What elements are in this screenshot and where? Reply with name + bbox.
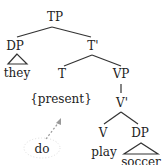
edge-vbar-v [104,112,121,124]
node-they: they [4,67,30,79]
moved-do: do [35,143,50,155]
node-tbar: T' [87,40,98,52]
node-v: V [99,127,108,139]
dp-triangle [8,54,27,64]
node-dp-obj: DP [131,127,149,139]
node-present: {present} [30,93,92,105]
edge-tbar-t [64,55,92,66]
tree-lines [0,0,166,165]
movement-arrow [46,122,59,139]
edge-vbar-dp [121,112,138,124]
edge-tp-dp [17,27,52,37]
node-vbar: V' [116,97,128,109]
node-t: T [58,68,66,80]
node-tp: TP [47,11,63,23]
edge-tbar-vp [92,55,121,66]
node-play: play [91,146,116,158]
node-vp: VP [113,68,130,80]
node-soccer: soccer [121,156,161,165]
dp-obj-triangle [124,143,158,154]
arrowhead-icon [56,118,61,125]
edge-tp-tbar [52,27,91,37]
node-dp-subj: DP [6,40,24,52]
